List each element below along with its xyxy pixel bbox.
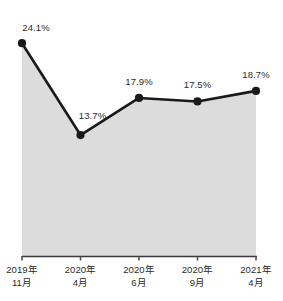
data-point-marker — [135, 94, 143, 102]
data-point-marker — [252, 87, 260, 95]
x-axis-category-labels: 2019年11月2020年4月2020年6月2020年9月2021年4月 — [6, 264, 272, 288]
data-value-label: 24.1% — [22, 22, 50, 33]
data-value-label: 17.9% — [125, 76, 153, 87]
data-point-marker — [193, 97, 201, 105]
x-axis-category-label: 2020年6月 — [123, 264, 155, 288]
x-axis-category-label: 2021年4月 — [240, 264, 272, 288]
data-point-marker — [76, 131, 84, 139]
x-axis-category-label: 2020年4月 — [65, 264, 97, 288]
data-value-label: 13.7% — [79, 110, 107, 121]
data-value-label: 17.5% — [184, 79, 212, 90]
category-label-line-bottom: 11月 — [12, 277, 32, 288]
category-label-line-bottom: 6月 — [131, 277, 146, 288]
x-axis-category-label: 2020年9月 — [182, 264, 214, 288]
category-label-line-bottom: 4月 — [248, 277, 263, 288]
data-value-label: 18.7% — [242, 69, 270, 80]
category-label-line-top: 2020年 — [182, 264, 214, 275]
category-label-line-top: 2020年 — [123, 264, 155, 275]
category-label-line-bottom: 4月 — [73, 277, 88, 288]
chart-canvas: 24.1%13.7%17.9%17.5%18.7% 2019年11月2020年4… — [0, 0, 283, 301]
category-label-line-top: 2020年 — [65, 264, 97, 275]
category-label-line-top: 2021年 — [240, 264, 272, 275]
category-label-line-top: 2019年 — [6, 264, 38, 275]
x-axis-category-label: 2019年11月 — [6, 264, 38, 288]
category-label-line-bottom: 9月 — [190, 277, 205, 288]
data-point-marker — [18, 39, 26, 47]
line-chart: 24.1%13.7%17.9%17.5%18.7% 2019年11月2020年4… — [0, 0, 283, 301]
